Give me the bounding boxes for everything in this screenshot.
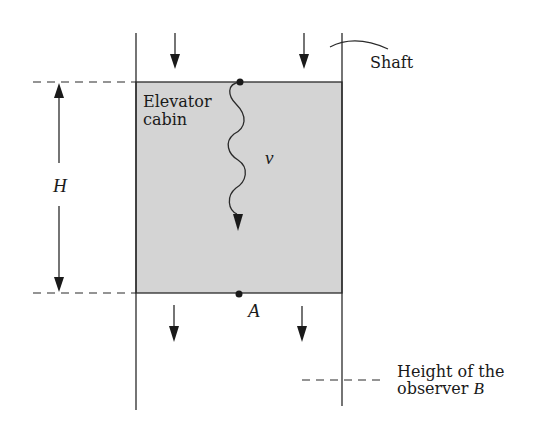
down-arrow-icon [299, 33, 309, 69]
observer-symbol: B [473, 379, 483, 398]
observer-label-text: observer [397, 379, 473, 398]
emitter-point [237, 79, 244, 86]
observer-label-line1: Height of the [397, 363, 504, 380]
observer-label-line2: observer B [397, 380, 484, 397]
down-arrow-icon [169, 305, 179, 342]
cabin-label-line1: Elevator [143, 93, 212, 110]
down-arrow-icon [297, 306, 307, 342]
shaft-label: Shaft [370, 54, 413, 71]
height-label: H [53, 177, 67, 194]
point-a-label: A [248, 302, 260, 319]
shaft-pointer-curve [330, 41, 388, 49]
point-a [236, 291, 243, 298]
down-arrow-icon [170, 33, 180, 69]
cabin-label-line2: cabin [143, 111, 187, 128]
frequency-label: ν [265, 149, 273, 166]
